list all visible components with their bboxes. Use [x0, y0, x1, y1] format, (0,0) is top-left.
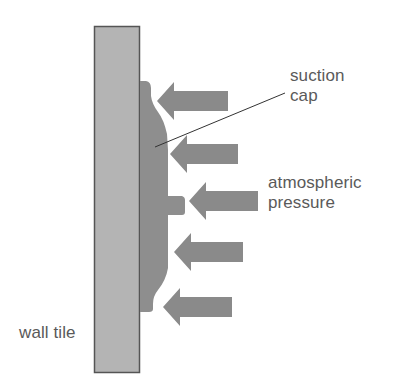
pressure-arrow-5 — [163, 288, 232, 326]
pressure-arrow-1 — [157, 82, 228, 120]
wall-tile — [95, 27, 140, 373]
pressure-arrow-3 — [189, 182, 258, 220]
wall-tile-label: wall tile — [19, 323, 76, 343]
suction-cap-label-line-1: suction — [290, 66, 345, 86]
atmospheric-pressure-label: atmospheric pressure — [268, 173, 362, 213]
suction-cap — [140, 81, 185, 312]
suction-cap-label-line-2: cap — [290, 86, 345, 106]
suction-cap-label: suction cap — [290, 66, 345, 106]
pressure-arrow-4 — [174, 233, 243, 271]
atmospheric-pressure-label-line-1: atmospheric — [268, 173, 362, 193]
atmospheric-pressure-label-line-2: pressure — [268, 193, 362, 213]
pressure-arrow-2 — [170, 135, 238, 173]
